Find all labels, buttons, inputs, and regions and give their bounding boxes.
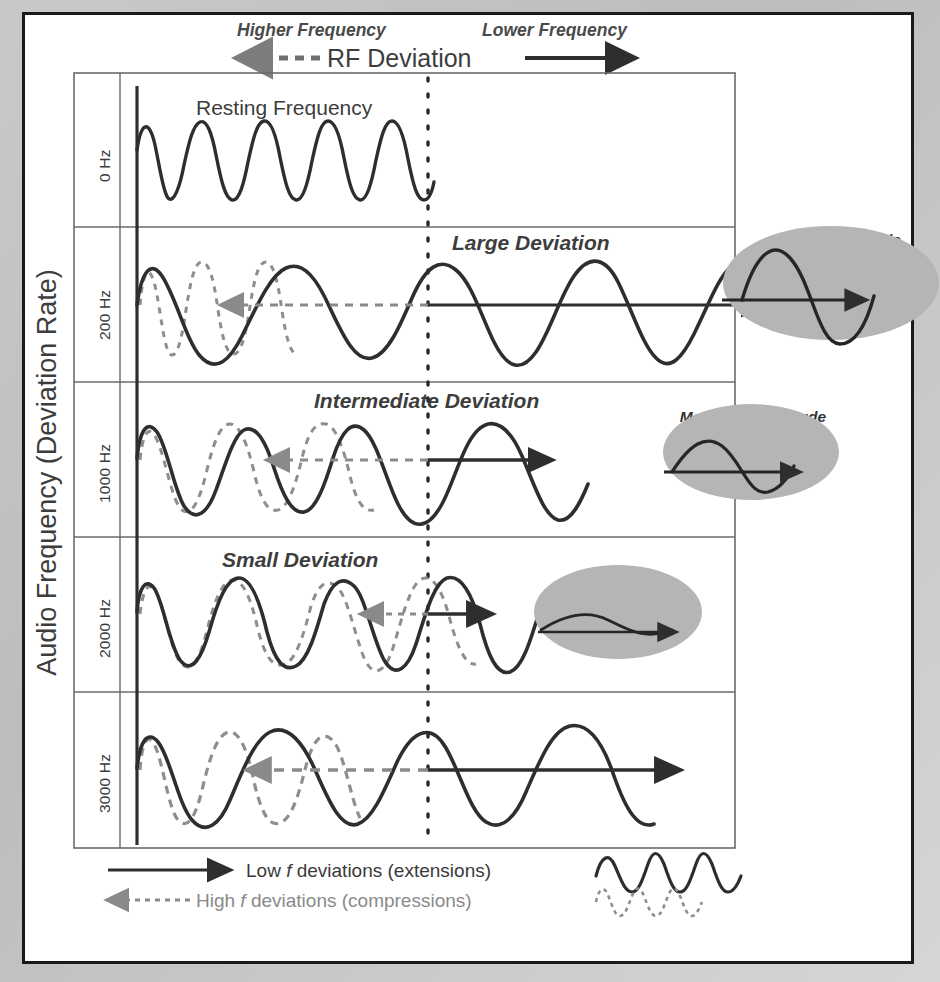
callout-low-amplitude-ellipse — [534, 565, 702, 659]
legend-dashed-wave-sample — [596, 889, 702, 917]
row-3000hz-solid-wave — [137, 726, 654, 828]
small-deviation-solid-wave — [137, 577, 538, 672]
resting-frequency-wave — [137, 121, 434, 200]
legend-group — [108, 854, 741, 917]
row-1000hz-waveform — [137, 424, 588, 525]
callout-bubble-moderate-amplitude — [663, 404, 839, 500]
row-3000hz-waveform — [137, 726, 680, 828]
figure-root: Audio Frequency (Deviation Rate) Higher … — [0, 0, 940, 982]
callout-bubble-low-amplitude — [534, 565, 702, 659]
large-deviation-solid-wave — [137, 261, 730, 365]
callout-bubble-high-amplitude — [722, 226, 939, 344]
row-200hz-waveform — [137, 261, 764, 365]
small-deviation-compression-wave — [140, 578, 476, 671]
row-2000hz-waveform — [137, 577, 538, 672]
intermediate-deviation-compression-wave — [140, 424, 374, 512]
legend-solid-wave-sample — [596, 854, 741, 893]
plot-frame — [74, 73, 735, 848]
row-0hz-waveform — [137, 121, 434, 200]
intermediate-deviation-solid-wave — [137, 424, 588, 525]
diagram-canvas — [0, 0, 940, 982]
callout-high-amplitude-ellipse — [723, 226, 939, 340]
